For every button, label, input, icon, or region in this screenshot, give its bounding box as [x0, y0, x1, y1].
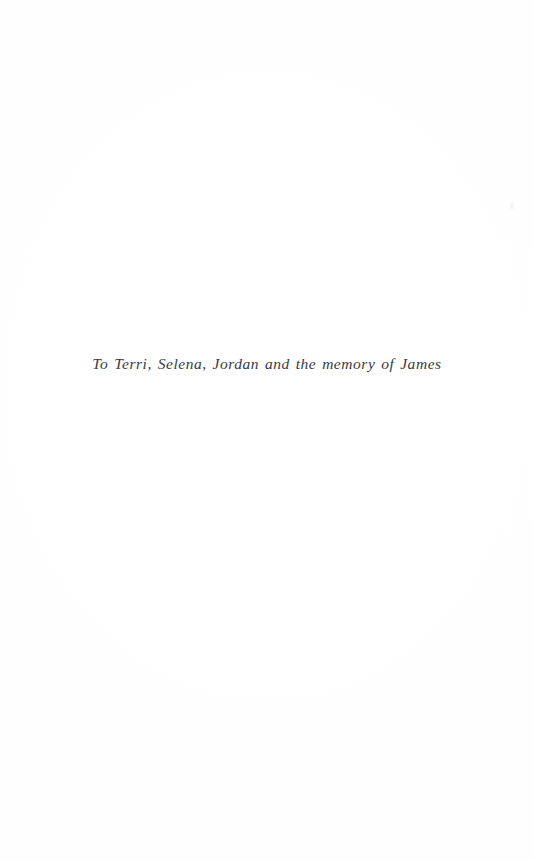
scan-speckle-artifact	[510, 203, 514, 209]
book-page: To Terri, Selena, Jordan and the memory …	[0, 0, 534, 861]
dedication-text: To Terri, Selena, Jordan and the memory …	[92, 352, 441, 376]
dedication-block: To Terri, Selena, Jordan and the memory …	[0, 352, 534, 376]
paper-texture	[0, 0, 534, 861]
